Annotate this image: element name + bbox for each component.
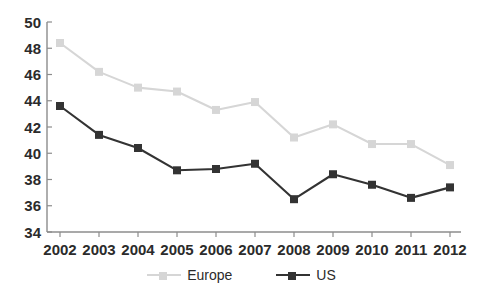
data-point-marker <box>173 88 181 96</box>
legend-item-europe[interactable]: Europe <box>147 267 232 283</box>
data-point-marker <box>56 102 64 110</box>
legend-swatch-icon <box>276 269 310 281</box>
y-axis-tick-label: 42 <box>0 120 41 135</box>
x-axis-tick-label: 2010 <box>352 242 392 257</box>
axes <box>47 22 461 237</box>
data-point-marker <box>56 39 64 47</box>
data-point-marker <box>290 134 298 142</box>
y-axis-tick-label: 50 <box>0 15 41 30</box>
data-point-marker <box>368 181 376 189</box>
y-axis-tick-label: 40 <box>0 146 41 161</box>
data-point-marker <box>290 195 298 203</box>
x-axis-tick-label: 2012 <box>430 242 470 257</box>
y-axis-tick-label: 48 <box>0 41 41 56</box>
data-point-marker <box>95 131 103 139</box>
x-axis-tick-label: 2004 <box>118 242 158 257</box>
x-axis-tick-label: 2003 <box>79 242 119 257</box>
data-point-marker <box>368 140 376 148</box>
series-europe <box>56 39 454 169</box>
x-axis-tick-label: 2006 <box>196 242 236 257</box>
data-point-marker <box>173 166 181 174</box>
legend-item-us[interactable]: US <box>276 267 335 283</box>
data-point-marker <box>407 140 415 148</box>
x-axis-tick-label: 2007 <box>235 242 275 257</box>
legend-label: US <box>316 267 335 283</box>
legend-marker-square-icon <box>288 272 296 280</box>
legend-swatch-icon <box>147 269 181 281</box>
legend-marker-square-icon <box>159 272 167 280</box>
data-point-marker <box>251 98 259 106</box>
y-axis-tick-label: 36 <box>0 198 41 213</box>
y-axis-tick-label: 46 <box>0 67 41 82</box>
data-point-marker <box>212 165 220 173</box>
data-point-marker <box>446 161 454 169</box>
legend-label: Europe <box>187 267 232 283</box>
series-line <box>60 106 450 199</box>
data-point-marker <box>95 68 103 76</box>
x-axis-tick-label: 2005 <box>157 242 197 257</box>
y-axis-tick-label: 38 <box>0 172 41 187</box>
data-point-marker <box>212 106 220 114</box>
data-point-marker <box>134 144 142 152</box>
data-point-marker <box>446 183 454 191</box>
y-axis-tick-label: 44 <box>0 93 41 108</box>
data-point-marker <box>134 84 142 92</box>
data-point-marker <box>251 160 259 168</box>
x-axis-tick-label: 2008 <box>274 242 314 257</box>
series-us <box>56 102 454 203</box>
line-chart: 343638404244464850 200220032004200520062… <box>0 0 483 292</box>
x-axis-tick-label: 2011 <box>391 242 431 257</box>
x-axis-tick-label: 2009 <box>313 242 353 257</box>
chart-legend: EuropeUS <box>0 262 483 288</box>
data-point-marker <box>407 194 415 202</box>
data-series <box>56 39 454 203</box>
data-point-marker <box>329 170 337 178</box>
data-point-marker <box>329 120 337 128</box>
y-axis-tick-label: 34 <box>0 225 41 240</box>
x-axis-tick-label: 2002 <box>40 242 80 257</box>
